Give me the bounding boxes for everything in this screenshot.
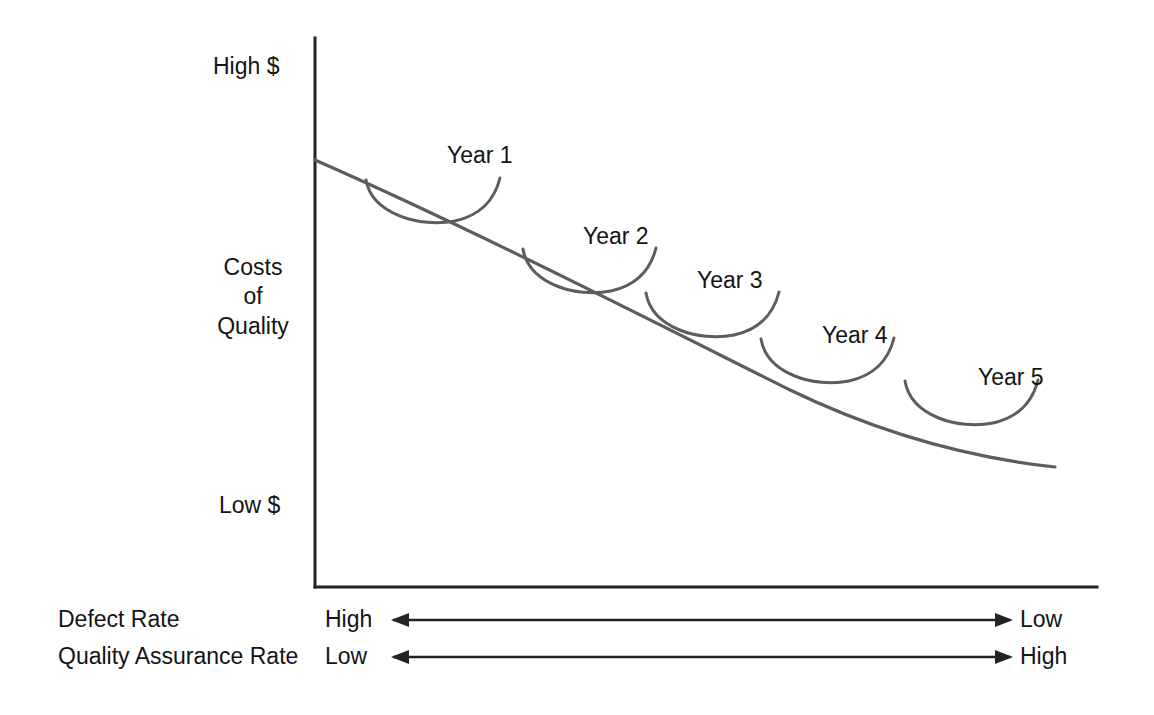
y-axis-title-line-3: Quality bbox=[205, 312, 301, 341]
defect-rate-left-value: High bbox=[325, 608, 372, 631]
defect-rate-arrow bbox=[391, 613, 1013, 627]
y-axis-title: Costs of Quality bbox=[205, 253, 301, 341]
defect-rate-arrowhead-right bbox=[995, 613, 1013, 627]
year-1-arc bbox=[366, 178, 500, 223]
y-axis-bottom-label: Low $ bbox=[219, 494, 280, 517]
year-3-arc bbox=[646, 292, 779, 337]
qa-rate-arrowhead-left bbox=[391, 650, 409, 664]
defect-rate-row-title: Defect Rate bbox=[58, 608, 179, 631]
year-3-label: Year 3 bbox=[697, 269, 763, 292]
year-4-label: Year 4 bbox=[822, 324, 888, 347]
year-1-label: Year 1 bbox=[447, 144, 513, 167]
defect-rate-right-value: Low bbox=[1020, 608, 1062, 631]
qa-rate-arrowhead-right bbox=[995, 650, 1013, 664]
quality-assurance-rate-right-value: High bbox=[1020, 645, 1067, 668]
y-axis-title-line-1: Costs bbox=[205, 253, 301, 282]
year-5-label: Year 5 bbox=[978, 366, 1044, 389]
year-2-label: Year 2 bbox=[583, 225, 649, 248]
y-axis-title-line-2: of bbox=[205, 282, 301, 311]
quality-assurance-rate-left-value: Low bbox=[325, 645, 367, 668]
defect-rate-arrowhead-left bbox=[391, 613, 409, 627]
year-2-arc bbox=[523, 248, 656, 293]
quality-assurance-rate-row-title: Quality Assurance Rate bbox=[58, 645, 298, 668]
chart-canvas: High $ Costs of Quality Low $ Year 1 Yea… bbox=[0, 0, 1154, 715]
quality-assurance-rate-arrow bbox=[391, 650, 1013, 664]
y-axis-top-label: High $ bbox=[213, 55, 279, 78]
